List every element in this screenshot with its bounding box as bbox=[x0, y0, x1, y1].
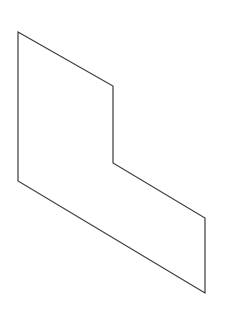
hexagon-outline bbox=[18, 32, 205, 293]
diagram-svg bbox=[0, 0, 229, 314]
drawing-canvas bbox=[0, 0, 229, 314]
